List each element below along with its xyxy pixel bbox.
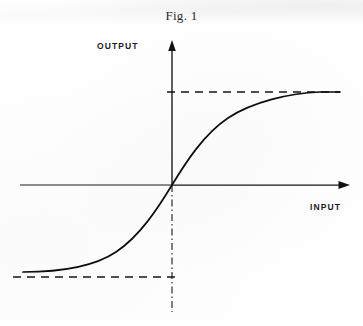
figure-canvas: Fig. 1 OUTPUT INPUT	[0, 0, 363, 326]
x-axis-arrow-icon	[339, 181, 351, 189]
y-axis-arrow-icon	[168, 40, 176, 51]
transfer-curve	[23, 92, 340, 272]
plot-svg	[0, 0, 363, 326]
x-axis-label: INPUT	[310, 202, 341, 212]
y-axis-label: OUTPUT	[97, 41, 139, 51]
